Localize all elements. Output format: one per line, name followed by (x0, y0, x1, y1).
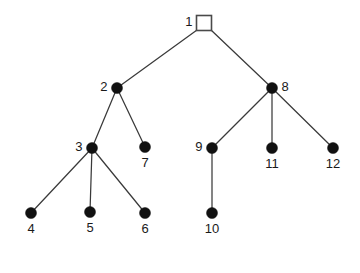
tree-edge-2-7 (117, 88, 145, 147)
tree-diagram-svg: 123456789101112 (0, 0, 360, 273)
tree-edge-3-5 (90, 148, 92, 212)
tree-node-4[interactable] (26, 208, 37, 219)
tree-node-label-6: 6 (141, 221, 148, 236)
tree-node-label-3: 3 (75, 139, 82, 154)
tree-edge-1-8 (211, 30, 272, 88)
tree-diagram-canvas: 123456789101112 (0, 0, 360, 273)
tree-node-5[interactable] (85, 207, 96, 218)
tree-node-label-12: 12 (326, 156, 340, 171)
tree-node-label-7: 7 (141, 155, 148, 170)
tree-edge-8-9 (212, 88, 272, 148)
tree-node-7[interactable] (140, 142, 151, 153)
tree-node-label-5: 5 (86, 220, 93, 235)
tree-node-10[interactable] (207, 208, 218, 219)
nodes-group (26, 16, 339, 219)
tree-node-label-10: 10 (205, 221, 219, 236)
tree-edge-3-4 (31, 148, 92, 213)
tree-node-12[interactable] (328, 143, 339, 154)
tree-edge-8-12 (272, 88, 333, 148)
tree-node-9[interactable] (207, 143, 218, 154)
tree-node-2[interactable] (112, 83, 123, 94)
tree-node-label-9: 9 (195, 139, 202, 154)
tree-node-1[interactable] (197, 16, 212, 31)
tree-node-label-1: 1 (185, 14, 192, 29)
tree-node-6[interactable] (140, 208, 151, 219)
tree-node-label-8: 8 (282, 79, 289, 94)
edges-group (31, 30, 333, 213)
labels-group: 123456789101112 (27, 14, 340, 236)
tree-edge-3-6 (92, 148, 145, 213)
tree-edge-1-2 (117, 30, 197, 88)
tree-node-label-2: 2 (100, 79, 107, 94)
tree-node-11[interactable] (267, 143, 278, 154)
tree-node-label-11: 11 (265, 156, 279, 171)
tree-node-label-4: 4 (27, 221, 34, 236)
tree-node-8[interactable] (267, 83, 278, 94)
tree-edge-2-3 (92, 88, 117, 148)
tree-node-3[interactable] (87, 143, 98, 154)
